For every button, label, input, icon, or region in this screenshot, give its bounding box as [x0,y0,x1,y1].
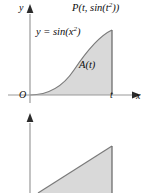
area-label-a: A(t) [79,60,95,71]
area-region-a [30,30,112,95]
point-label-p-top-prefix: P(t, sin(t [72,2,109,13]
curve-equation-suffix: ) [77,26,81,37]
x-tick-label-t: t [110,90,113,100]
y-axis-label-top: y [19,3,23,13]
point-label-p-top: P(t, sin(t2)) [72,3,119,14]
y-axis-arrow-icon-bottom [27,113,34,122]
area-label-a-prefix: A(t [79,59,92,70]
x-axis-label-top: x [136,91,140,101]
curve-equation-label: y = sin(x2) [36,27,80,38]
curve-equation-prefix: y = sin(x [36,26,73,37]
area-label-a-suffix: ) [92,59,96,70]
chart-panel-bottom: y P(t, sin(t2)) B(t) [0,104,151,193]
point-label-p-top-suffix: )) [112,2,119,13]
bottom-panel-graphics [0,104,151,193]
origin-label-top: O [19,90,26,100]
chart-panel-top: y O x t P(t, sin(t2)) y = sin(x2) A(t) [0,0,151,104]
y-axis-arrow-icon [27,4,34,13]
figure-container: y O x t P(t, sin(t2)) y = sin(x2) A(t) y… [0,0,151,193]
